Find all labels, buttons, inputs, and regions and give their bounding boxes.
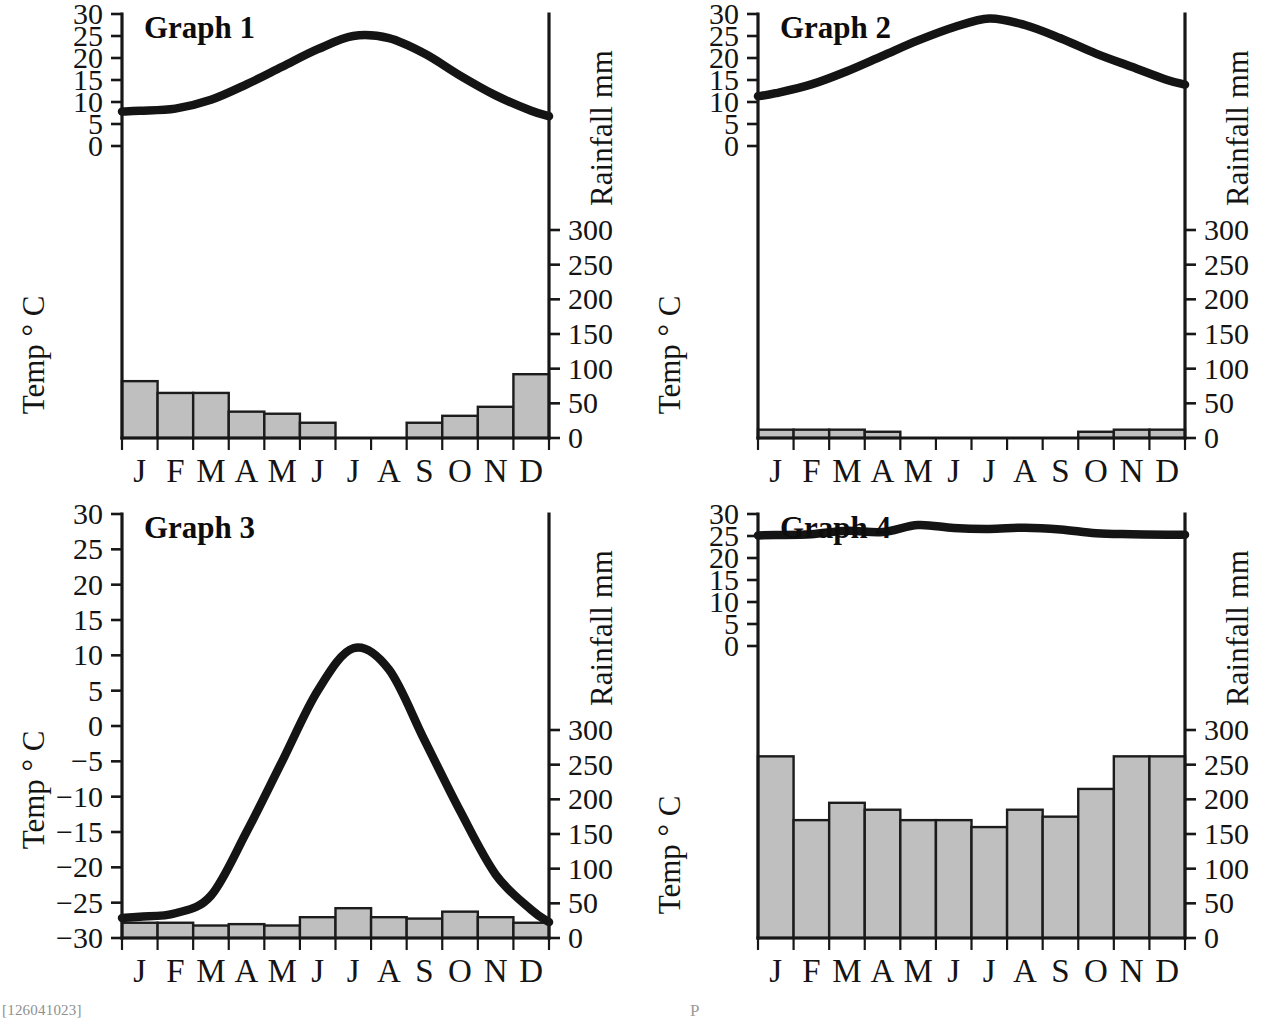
- graph-title: Graph 4: [780, 510, 891, 545]
- rainfall-tick-label: 0: [1204, 921, 1219, 954]
- graph-title: Graph 2: [780, 10, 891, 45]
- rainfall-ticks: 050100150200250300: [549, 713, 613, 954]
- temperature-tick-label: 30: [73, 500, 103, 530]
- temperature-tick-label: −30: [56, 921, 103, 954]
- temperature-tick-label: −10: [56, 780, 103, 813]
- graph-title: Graph 3: [144, 510, 255, 545]
- month-label-3: A: [871, 953, 895, 989]
- climograph-graph-2: 051015202530050100150200250300JFMAMJJASO…: [636, 0, 1271, 500]
- rainfall-tick-label: 0: [568, 421, 583, 454]
- rainfall-tick-label: 250: [1204, 748, 1249, 781]
- month-axis: JFMAMJJASOND: [758, 938, 1185, 989]
- temperature-ticks: 051015202530: [73, 0, 122, 162]
- rainfall-ticks: 050100150200250300: [1185, 213, 1249, 454]
- rainfall-bar-o-9: [1078, 789, 1114, 938]
- rainfall-bar-j-5: [300, 917, 336, 938]
- rainfall-tick-label: 200: [568, 782, 613, 815]
- month-label-8: S: [415, 453, 433, 489]
- month-label-9: O: [1084, 953, 1108, 989]
- rainfall-tick-label: 250: [1204, 248, 1249, 281]
- rainfall-ticks: 050100150200250300: [549, 213, 613, 454]
- rainfall-bar-f-1: [158, 923, 194, 938]
- rainfall-tick-label: 300: [1204, 213, 1249, 246]
- month-label-6: J: [983, 453, 996, 489]
- temperature-tick-label: 10: [73, 638, 103, 671]
- rainfall-bars: [758, 756, 1185, 938]
- month-axis: JFMAMJJASOND: [122, 938, 549, 989]
- rainfall-tick-label: 100: [568, 352, 613, 385]
- month-label-5: J: [947, 453, 960, 489]
- temperature-tick-label: 30: [709, 500, 739, 530]
- temperature-axis-title: Temp ° C: [16, 296, 51, 415]
- rainfall-axis-title: Rainfall mm: [584, 50, 619, 206]
- graph-4-svg: 051015202530050100150200250300JFMAMJJASO…: [636, 500, 1271, 1000]
- graph-2-svg: 051015202530050100150200250300JFMAMJJASO…: [636, 0, 1271, 500]
- footer-mark: [126041023]: [2, 1002, 82, 1019]
- temperature-tick-label: 5: [88, 674, 103, 707]
- rainfall-tick-label: 200: [1204, 782, 1249, 815]
- month-label-6: J: [983, 953, 996, 989]
- rainfall-bar-a-7: [371, 917, 407, 938]
- month-label-11: D: [1155, 453, 1179, 489]
- month-label-0: J: [769, 953, 782, 989]
- temperature-tick-label: 20: [73, 568, 103, 601]
- month-label-7: A: [1013, 953, 1037, 989]
- month-label-11: D: [1155, 953, 1179, 989]
- rainfall-tick-label: 250: [568, 748, 613, 781]
- rainfall-bar-a-7: [1007, 810, 1043, 938]
- month-label-3: A: [235, 453, 259, 489]
- month-label-5: J: [311, 953, 324, 989]
- rainfall-bar-o-9: [442, 912, 478, 938]
- temperature-curve: [122, 35, 549, 116]
- rainfall-tick-label: 200: [1204, 282, 1249, 315]
- rainfall-bar-a-3: [229, 412, 265, 438]
- temperature-axis-title: Temp ° C: [16, 731, 51, 850]
- rainfall-tick-label: 50: [568, 386, 598, 419]
- rainfall-bar-j-5: [936, 820, 972, 938]
- month-label-10: N: [1120, 953, 1144, 989]
- month-label-8: S: [1051, 953, 1069, 989]
- rainfall-tick-label: 150: [1204, 817, 1249, 850]
- temperature-tick-label: 30: [73, 0, 103, 30]
- month-label-4: M: [267, 453, 296, 489]
- temperature-tick-label: −20: [56, 850, 103, 883]
- rainfall-bar-d-11: [513, 923, 549, 938]
- rainfall-tick-label: 150: [1204, 317, 1249, 350]
- month-label-9: O: [1084, 453, 1108, 489]
- rainfall-bar-m-2: [829, 803, 865, 938]
- climograph-graph-3: −30−25−20−15−10−505101520253005010015020…: [0, 500, 635, 1000]
- rainfall-bar-d-11: [1149, 756, 1185, 938]
- month-label-6: J: [347, 953, 360, 989]
- temperature-tick-label: 0: [88, 709, 103, 742]
- month-label-4: M: [903, 453, 932, 489]
- rainfall-tick-label: 200: [568, 282, 613, 315]
- month-label-1: F: [166, 453, 184, 489]
- rainfall-bar-m-2: [193, 393, 229, 438]
- rainfall-bar-j-6: [972, 827, 1008, 938]
- rainfall-tick-label: 0: [568, 921, 583, 954]
- rainfall-tick-label: 100: [1204, 852, 1249, 885]
- rainfall-tick-label: 250: [568, 248, 613, 281]
- month-label-2: M: [196, 453, 225, 489]
- month-label-0: J: [133, 453, 146, 489]
- rainfall-tick-label: 150: [568, 817, 613, 850]
- rainfall-tick-label: 50: [568, 886, 598, 919]
- month-label-10: N: [484, 953, 508, 989]
- month-label-8: S: [1051, 453, 1069, 489]
- rainfall-tick-label: 100: [1204, 352, 1249, 385]
- rainfall-axis-title: Rainfall mm: [584, 550, 619, 706]
- temperature-tick-label: −15: [56, 815, 103, 848]
- rainfall-tick-label: 0: [1204, 421, 1219, 454]
- rainfall-bar-j-5: [300, 423, 336, 438]
- climograph-graph-1: 051015202530050100150200250300JFMAMJJASO…: [0, 0, 635, 500]
- month-label-4: M: [267, 953, 296, 989]
- rainfall-bar-j-0: [758, 756, 794, 938]
- rainfall-axis-title: Rainfall mm: [1220, 550, 1255, 706]
- climograph-graph-4: 051015202530050100150200250300JFMAMJJASO…: [636, 500, 1271, 1000]
- graph-3-svg: −30−25−20−15−10−505101520253005010015020…: [0, 500, 635, 1000]
- rainfall-bar-j-6: [336, 908, 372, 938]
- month-label-1: F: [166, 953, 184, 989]
- month-label-10: N: [1120, 453, 1144, 489]
- month-label-1: F: [802, 453, 820, 489]
- month-label-7: A: [377, 453, 401, 489]
